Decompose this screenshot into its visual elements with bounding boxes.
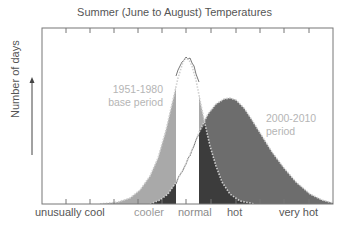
x-label-hot: hot <box>227 206 242 218</box>
base-period-annotation: 1951-1980 base period <box>103 83 163 109</box>
y-axis-arrow-icon <box>30 77 35 155</box>
x-label-very-hot: very hot <box>279 206 318 218</box>
x-label-normal: normal <box>178 206 212 218</box>
x-label-cooler: cooler <box>134 206 164 218</box>
normal-band <box>176 28 199 204</box>
base-annotation-line1: 1951-1980 <box>103 83 163 96</box>
x-label-unusually-cool: unusually cool <box>35 206 105 218</box>
recent-annotation-line2: period <box>266 125 316 138</box>
y-axis-label: Number of days <box>9 38 23 118</box>
recent-period-annotation: 2000-2010 period <box>266 112 316 138</box>
base-annotation-line2: base period <box>103 96 163 109</box>
recent-annotation-line1: 2000-2010 <box>266 112 316 125</box>
